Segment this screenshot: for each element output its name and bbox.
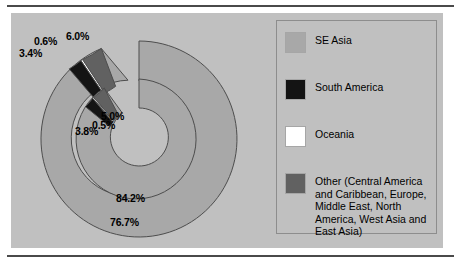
legend-label-se-asia: SE Asia <box>315 32 433 47</box>
legend-item-other[interactable]: Other (Central America and Caribbean, Eu… <box>285 173 433 238</box>
nested-donut-chart: 6.0% 0.6% 3.4% 76.7% 5.0% 0.5% 3.8% 84.2… <box>30 30 248 248</box>
outer-ring <box>41 41 237 237</box>
legend-swatch-oceania <box>285 126 306 147</box>
label-outer-se-asia: 76.7% <box>110 216 139 228</box>
top-divider-rule <box>7 5 454 7</box>
legend-item-south-america[interactable]: South America <box>285 79 433 100</box>
legend-label-south-america: South America <box>315 79 433 94</box>
legend-item-oceania[interactable]: Oceania <box>285 126 433 147</box>
legend-swatch-other <box>285 173 306 194</box>
legend-swatch-se-asia <box>285 32 306 53</box>
figure-container: 6.0% 0.6% 3.4% 76.7% 5.0% 0.5% 3.8% 84.2… <box>0 0 461 263</box>
donut-svg <box>30 30 248 248</box>
chart-panel: 6.0% 0.6% 3.4% 76.7% 5.0% 0.5% 3.8% 84.2… <box>11 13 443 248</box>
label-outer-oceania: 0.6% <box>34 35 57 47</box>
legend-label-oceania: Oceania <box>315 126 433 141</box>
legend-box: SE Asia South America Oceania Other (Cen… <box>276 20 437 234</box>
label-inner-south-america: 3.8% <box>75 125 98 137</box>
legend-item-se-asia[interactable]: SE Asia <box>285 32 433 53</box>
label-inner-se-asia: 84.2% <box>116 192 145 204</box>
label-outer-other: 6.0% <box>66 30 89 42</box>
inner-ring <box>76 79 196 199</box>
label-outer-south-america: 3.4% <box>19 47 42 59</box>
bottom-divider-rule <box>7 255 454 257</box>
legend-swatch-south-america <box>285 79 306 100</box>
legend-label-other: Other (Central America and Caribbean, Eu… <box>315 173 433 238</box>
